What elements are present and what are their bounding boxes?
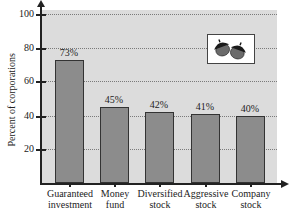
x-axis-arrow-icon (281, 180, 289, 188)
y-tick (36, 116, 46, 118)
y-tick (36, 48, 46, 50)
bar-guaranteed-investment (55, 60, 84, 183)
y-axis-title: Percent of corporations (6, 57, 17, 147)
bar-company-stock (236, 116, 265, 183)
gridline-100 (41, 14, 277, 15)
category-label-line1: Company (223, 188, 279, 199)
value-label: 42% (139, 100, 179, 110)
bar-money-fund (100, 107, 129, 183)
value-label: 45% (94, 95, 134, 105)
y-tick (36, 149, 46, 151)
y-axis-arrow-icon (37, 0, 45, 7)
value-label: 41% (185, 102, 225, 112)
value-label: 73% (49, 48, 89, 58)
y-axis (40, 4, 42, 184)
acorns-illustration (207, 34, 255, 64)
x-tick (69, 183, 71, 187)
bar-aggressive-stock (191, 114, 220, 183)
category-label-line2: stock (223, 199, 279, 210)
y-tick (36, 14, 46, 16)
x-axis (40, 183, 282, 185)
x-tick (250, 183, 252, 187)
x-tick (159, 183, 161, 187)
acorns-icon (208, 35, 254, 63)
bar-diversified-stock (145, 112, 174, 183)
value-label: 40% (230, 104, 270, 114)
y-tick-label: 80 (12, 43, 34, 53)
x-tick (114, 183, 116, 187)
x-tick (205, 183, 207, 187)
y-tick-label: 100 (12, 9, 34, 19)
category-label: Company stock (223, 188, 279, 210)
y-tick (36, 81, 46, 83)
